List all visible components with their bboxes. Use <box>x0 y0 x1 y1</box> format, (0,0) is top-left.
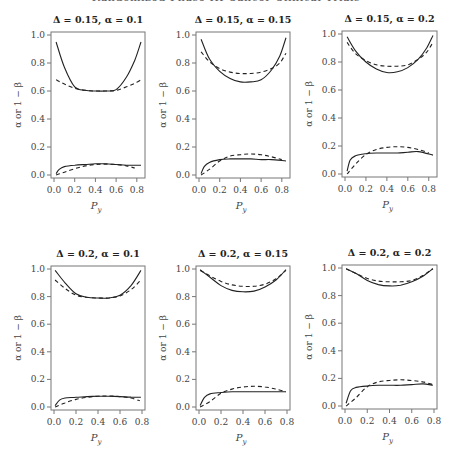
x-tick-label: 0.4 <box>91 417 106 427</box>
y-tick-label: 0.6 <box>176 86 191 96</box>
x-tick-label: 0.4 <box>382 416 397 426</box>
series-solid-alpha <box>56 164 141 174</box>
y-axis-label: α or 1 − β <box>304 81 314 127</box>
y-tick-label: 0.2 <box>31 142 45 152</box>
y-tick-label: 0.6 <box>322 85 337 95</box>
series-dashed-power <box>201 52 286 74</box>
x-axis-label: Py <box>381 431 394 445</box>
y-tick-label: 0.6 <box>31 319 46 329</box>
y-tick-label: 0.8 <box>31 58 46 68</box>
y-tick-label: 0.0 <box>176 170 191 180</box>
y-tick-label: 1.0 <box>322 29 337 39</box>
x-tick-label: 0.2 <box>68 185 82 195</box>
x-tick-label: 0.6 <box>113 417 128 427</box>
x-tick-label: 0.2 <box>69 417 83 427</box>
y-tick-label: 1.0 <box>176 30 191 40</box>
y-tick-label: 0.8 <box>176 58 191 68</box>
x-tick-label: 0.0 <box>338 416 353 426</box>
y-tick-label: 0.4 <box>176 347 191 357</box>
x-tick-label: 0.4 <box>236 417 251 427</box>
series-dashed-alpha <box>201 154 282 175</box>
series-dashed-power <box>56 80 141 91</box>
figure-grid: Δ = 0.15, α = 0.10.00.20.40.60.81.00.00.… <box>0 0 452 455</box>
chart-panel-1: Δ = 0.15, α = 0.10.00.20.40.60.81.00.00.… <box>13 14 145 214</box>
x-tick-label: 0.8 <box>135 417 150 427</box>
x-axis-label: Py <box>90 200 103 214</box>
y-tick-label: 0.4 <box>322 346 337 356</box>
y-axis-label: α or 1 − β <box>304 314 314 360</box>
series-solid-power <box>201 38 286 82</box>
series-solid-power <box>346 269 433 286</box>
x-tick-label: 0.2 <box>214 417 228 427</box>
y-tick-label: 0.2 <box>322 373 336 383</box>
chart-panel-4: Δ = 0.2, α = 0.10.00.20.40.60.81.00.00.2… <box>13 248 149 446</box>
panel-title: Δ = 0.15, α = 0.15 <box>195 14 292 26</box>
series-dashed-alpha <box>200 386 286 407</box>
x-tick-label: 0.0 <box>47 185 62 195</box>
y-axis-label: α or 1 − β <box>13 82 23 128</box>
series-solid-alpha <box>347 151 433 171</box>
panel-title: Δ = 0.2, α = 0.15 <box>198 248 288 260</box>
y-tick-label: 0.2 <box>176 374 190 384</box>
y-axis-label: α or 1 − β <box>158 315 168 361</box>
x-tick-label: 0.2 <box>360 416 374 426</box>
x-tick-label: 0.8 <box>275 185 290 195</box>
chart-panel-2: Δ = 0.15, α = 0.150.00.20.40.60.81.00.00… <box>158 14 291 214</box>
y-tick-label: 0.4 <box>31 347 46 357</box>
y-tick-label: 0.6 <box>31 86 46 96</box>
series-solid-power <box>347 35 433 72</box>
y-tick-label: 0.4 <box>176 114 191 124</box>
x-tick-label: 0.8 <box>280 417 295 427</box>
y-tick-label: 0.8 <box>31 292 46 302</box>
y-tick-label: 0.4 <box>322 113 337 123</box>
y-tick-label: 1.0 <box>31 30 46 40</box>
y-tick-label: 0.2 <box>176 142 190 152</box>
y-tick-label: 0.0 <box>31 402 46 412</box>
x-tick-label: 0.4 <box>88 185 103 195</box>
series-dashed-power <box>200 270 286 286</box>
x-tick-label: 0.0 <box>192 185 207 195</box>
x-tick-label: 0.2 <box>359 184 373 194</box>
series-dashed-power <box>347 42 433 66</box>
panel-title: Δ = 0.15, α = 0.1 <box>53 14 143 26</box>
y-axis-label: α or 1 − β <box>158 82 168 128</box>
y-axis-label: α or 1 − β <box>13 315 23 361</box>
y-tick-label: 0.2 <box>322 141 336 151</box>
chart-panel-5: Δ = 0.2, α = 0.150.00.20.40.60.81.00.00.… <box>158 248 294 446</box>
y-tick-label: 0.4 <box>31 114 46 124</box>
y-tick-label: 0.8 <box>322 57 337 67</box>
x-tick-label: 0.6 <box>254 185 269 195</box>
x-axis-label: Py <box>235 432 248 446</box>
y-tick-label: 0.2 <box>31 374 45 384</box>
x-tick-label: 0.8 <box>130 185 145 195</box>
y-tick-label: 0.0 <box>322 401 337 411</box>
y-tick-label: 1.0 <box>176 264 191 274</box>
panel-title: Δ = 0.2, α = 0.1 <box>56 248 140 260</box>
y-tick-label: 1.0 <box>31 264 46 274</box>
x-tick-label: 0.8 <box>427 416 442 426</box>
x-tick-label: 0.0 <box>338 184 353 194</box>
series-dashed-alpha <box>347 147 429 174</box>
y-tick-label: 0.0 <box>31 170 46 180</box>
chart-panel-6: Δ = 0.2, α = 0.20.00.20.40.60.81.00.00.2… <box>304 247 441 445</box>
y-tick-label: 0.8 <box>322 291 337 301</box>
y-tick-label: 0.6 <box>176 319 191 329</box>
x-tick-label: 0.6 <box>258 417 273 427</box>
y-tick-label: 0.0 <box>176 402 191 412</box>
x-axis-label: Py <box>90 432 103 446</box>
series-solid-power <box>55 270 141 298</box>
x-tick-label: 0.0 <box>192 417 207 427</box>
x-axis-label: Py <box>381 199 394 213</box>
panel-title: Δ = 0.2, α = 0.2 <box>348 247 432 259</box>
series-solid-alpha <box>346 384 433 403</box>
series-solid-alpha <box>55 396 141 405</box>
x-axis-label: Py <box>235 200 248 214</box>
x-tick-label: 0.2 <box>213 185 227 195</box>
x-tick-label: 0.6 <box>405 416 420 426</box>
plot-frame <box>196 266 290 410</box>
x-tick-label: 0.4 <box>380 184 395 194</box>
x-tick-label: 0.6 <box>401 184 416 194</box>
plot-frame <box>196 32 290 178</box>
chart-panel-3: Δ = 0.15, α = 0.20.00.20.40.60.81.00.00.… <box>304 13 437 213</box>
y-tick-label: 0.6 <box>322 318 337 328</box>
